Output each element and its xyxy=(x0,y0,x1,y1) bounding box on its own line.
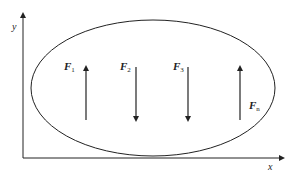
force-diagram: y x F1 F2 F3 Fn xyxy=(0,0,293,180)
force-label: Fn xyxy=(248,99,260,113)
region-ellipse xyxy=(31,20,275,156)
force-label: F3 xyxy=(172,60,184,74)
force-label: F1 xyxy=(63,60,75,74)
force-fn: Fn xyxy=(240,68,260,120)
y-axis-label: y xyxy=(11,21,17,32)
force-f1: F1 xyxy=(63,60,86,120)
axes: y x xyxy=(11,15,282,172)
x-axis-label: x xyxy=(267,161,273,172)
force-f3: F3 xyxy=(172,60,188,119)
force-label: F2 xyxy=(119,60,131,74)
force-f2: F2 xyxy=(119,60,136,119)
